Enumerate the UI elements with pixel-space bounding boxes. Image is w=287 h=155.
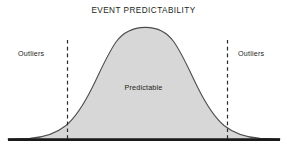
outliers-right-label: Outliers: [238, 50, 264, 57]
predictable-label: Predictable: [0, 84, 287, 91]
outliers-left-label: Outliers: [18, 50, 44, 57]
bell-curve-chart: [0, 0, 287, 155]
chart-title: EVENT PREDICTABILITY: [0, 7, 287, 15]
event-predictability-figure: EVENT PREDICTABILITY Outliers Outliers P…: [0, 0, 287, 155]
